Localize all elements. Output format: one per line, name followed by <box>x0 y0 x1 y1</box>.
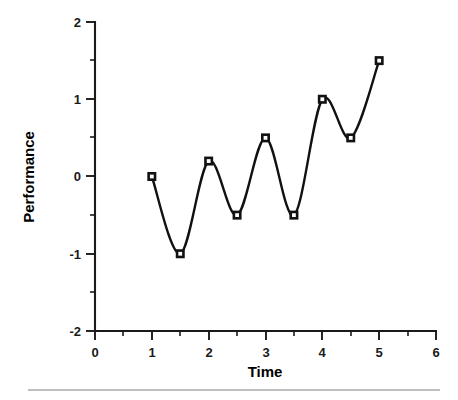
y-axis-title: Performance <box>20 131 37 223</box>
x-tick-label-5: 5 <box>375 345 382 360</box>
data-point-marker <box>291 212 297 218</box>
y-tick-label-0: 0 <box>74 169 81 184</box>
y-tick-label-neg2: -2 <box>69 324 81 339</box>
data-point-marker <box>376 57 382 63</box>
y-tick-label-1: 1 <box>74 92 81 107</box>
x-tick-label-2: 2 <box>205 345 212 360</box>
data-point-marker <box>149 173 155 179</box>
chart-figure: 2 1 0 -1 -2 Performance <box>0 0 458 400</box>
x-tick-label-4: 4 <box>318 345 326 360</box>
y-tick-label-neg1: -1 <box>69 247 81 262</box>
data-point-marker <box>262 135 268 141</box>
data-point-marker <box>319 96 325 102</box>
data-point-marker <box>177 251 183 257</box>
x-tick-label-0: 0 <box>91 345 98 360</box>
x-tick-label-6: 6 <box>432 345 439 360</box>
data-point-marker <box>205 158 211 164</box>
data-point-marker <box>348 135 354 141</box>
x-tick-label-1: 1 <box>148 345 155 360</box>
chart-background <box>0 0 458 400</box>
x-axis-title: Time <box>248 363 283 380</box>
y-tick-label-2: 2 <box>74 15 81 30</box>
performance-vs-time-line-chart: 2 1 0 -1 -2 Performance <box>0 0 458 400</box>
x-tick-label-3: 3 <box>262 345 269 360</box>
data-point-marker <box>234 212 240 218</box>
